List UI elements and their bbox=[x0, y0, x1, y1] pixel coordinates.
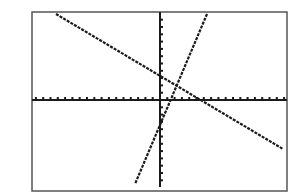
x-tick bbox=[71, 97, 73, 100]
x-tick bbox=[174, 97, 176, 100]
x-tick bbox=[42, 97, 44, 100]
y-tick bbox=[160, 136, 163, 138]
x-tick bbox=[152, 97, 154, 100]
x-tick bbox=[283, 97, 285, 100]
x-tick bbox=[115, 97, 117, 100]
y-tick bbox=[160, 19, 163, 21]
x-tick bbox=[203, 97, 205, 100]
x-tick bbox=[35, 97, 37, 100]
line-decreasing bbox=[56, 14, 283, 149]
x-tick bbox=[181, 97, 183, 100]
y-tick bbox=[160, 143, 163, 145]
x-tick bbox=[130, 97, 132, 100]
x-tick bbox=[217, 97, 219, 100]
y-tick bbox=[160, 165, 163, 167]
x-tick bbox=[232, 97, 234, 100]
x-tick bbox=[254, 97, 256, 100]
x-tick bbox=[93, 97, 95, 100]
x-tick bbox=[269, 97, 271, 100]
x-tick bbox=[137, 97, 139, 100]
x-tick bbox=[79, 97, 81, 100]
y-tick bbox=[160, 106, 163, 108]
x-tick bbox=[239, 97, 241, 100]
graph-plot bbox=[0, 0, 300, 196]
x-tick bbox=[166, 97, 168, 100]
x-tick bbox=[188, 97, 190, 100]
x-tick bbox=[57, 97, 59, 100]
axes bbox=[32, 12, 287, 187]
y-tick bbox=[160, 84, 163, 86]
y-tick bbox=[160, 41, 163, 43]
y-tick bbox=[160, 128, 163, 130]
y-tick bbox=[160, 114, 163, 116]
x-tick bbox=[261, 97, 263, 100]
y-tick bbox=[160, 55, 163, 57]
x-tick bbox=[247, 97, 249, 100]
x-tick bbox=[86, 97, 88, 100]
x-tick bbox=[123, 97, 125, 100]
y-tick bbox=[160, 70, 163, 72]
y-tick bbox=[160, 33, 163, 35]
y-tick bbox=[160, 63, 163, 65]
x-tick bbox=[144, 97, 146, 100]
x-tick bbox=[276, 97, 278, 100]
x-tick bbox=[210, 97, 212, 100]
y-tick bbox=[160, 172, 163, 174]
y-tick bbox=[160, 179, 163, 181]
y-tick bbox=[160, 157, 163, 159]
y-tick bbox=[160, 92, 163, 94]
x-tick bbox=[225, 97, 227, 100]
y-tick bbox=[160, 150, 163, 152]
y-tick bbox=[160, 48, 163, 50]
x-tick bbox=[108, 97, 110, 100]
x-tick bbox=[50, 97, 52, 100]
x-tick bbox=[101, 97, 103, 100]
y-tick bbox=[160, 26, 163, 28]
x-tick bbox=[64, 97, 66, 100]
